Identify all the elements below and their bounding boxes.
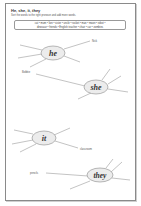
example-they: pencils <box>30 171 39 175</box>
word-webs: he she it they Nick Bobbie classroom pen… <box>6 4 135 200</box>
worksheet-page: He, she, it, they Sort the words to the … <box>5 3 136 201</box>
pronoun-they: they <box>94 171 108 180</box>
example-she: Bobbie <box>22 70 31 74</box>
example-he: Nick <box>92 39 98 43</box>
pronoun-he: he <box>49 49 57 58</box>
example-it: classroom <box>80 147 92 151</box>
pronoun-it: it <box>42 134 47 143</box>
pronoun-she: she <box>89 83 102 92</box>
